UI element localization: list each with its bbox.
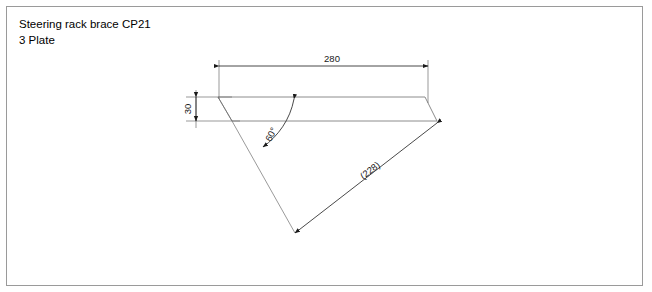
plate-left-edge-extension — [218, 97, 232, 121]
thickness-dimension: 30 — [182, 90, 240, 128]
angle-dimension-label: 60° — [263, 125, 280, 143]
width-dimension: 280 — [219, 53, 428, 103]
plate-outline — [218, 97, 437, 121]
plate-outline-path — [218, 97, 437, 121]
width-dimension-label: 280 — [324, 53, 340, 64]
construction-lines — [218, 97, 295, 233]
reference-dimension-label: (228) — [358, 159, 382, 181]
reference-dimension: (228) — [295, 123, 437, 233]
technical-drawing: 280 30 60° (228) — [0, 0, 652, 292]
angle-dimension: 60° — [263, 99, 294, 147]
thickness-dimension-label: 30 — [182, 104, 193, 115]
